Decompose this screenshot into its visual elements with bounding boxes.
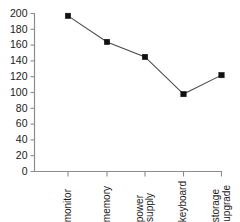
x-axis-label-word: supply (145, 193, 156, 222)
y-tick-label: 160 (10, 38, 28, 50)
data-point-marker (181, 91, 186, 96)
y-tick-label: 20 (16, 149, 28, 161)
data-point-marker (65, 13, 70, 18)
x-axis-label-word: storage (211, 189, 222, 222)
data-point-marker (104, 39, 109, 44)
y-tick-label: 200 (10, 7, 28, 19)
y-tick-label: 40 (16, 133, 28, 145)
x-axis-label-word: upgrade (222, 185, 233, 222)
y-tick-label: 100 (10, 86, 28, 98)
y-tick-label: 80 (16, 102, 28, 114)
y-tick-label: 120 (10, 70, 28, 82)
y-tick-label: 140 (10, 54, 28, 66)
data-point-marker (142, 54, 147, 59)
data-point-markers (65, 13, 224, 97)
data-point-marker (219, 72, 224, 77)
x-axis-label-word: keyboard (178, 181, 189, 222)
x-axis-label-storage-upgrade: storageupgrade (197, 174, 240, 222)
x-axis-label-word: memory (102, 186, 113, 222)
y-tick-label: 0 (22, 165, 28, 177)
y-tick-label: 60 (16, 117, 28, 129)
line-chart: 020406080100120140160180200 monitormemor… (0, 0, 239, 222)
x-axis-label-word: monitor (63, 189, 74, 222)
y-tick-label: 180 (10, 23, 28, 35)
y-axis-labels: 020406080100120140160180200 (10, 7, 28, 177)
